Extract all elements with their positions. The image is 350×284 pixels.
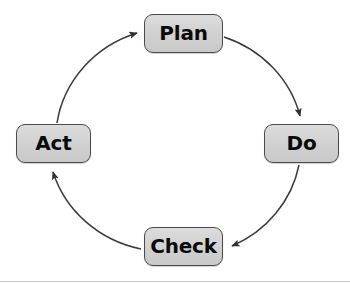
- node-plan[interactable]: Plan: [144, 14, 223, 53]
- node-check-label: Check: [150, 236, 217, 257]
- connector-do-to-check: [232, 165, 299, 246]
- connector-act-to-plan: [57, 33, 137, 123]
- connector-check-to-act: [53, 172, 141, 249]
- node-do-label: Do: [287, 133, 317, 154]
- connector-plan-to-do: [224, 37, 300, 116]
- node-plan-label: Plan: [159, 23, 207, 44]
- node-do[interactable]: Do: [264, 124, 339, 163]
- pdca-cycle-diagram: Plan Do Check Act: [0, 0, 350, 284]
- page-edge-line: [0, 281, 350, 282]
- node-check[interactable]: Check: [144, 227, 223, 266]
- node-act[interactable]: Act: [16, 124, 91, 163]
- node-act-label: Act: [35, 133, 71, 154]
